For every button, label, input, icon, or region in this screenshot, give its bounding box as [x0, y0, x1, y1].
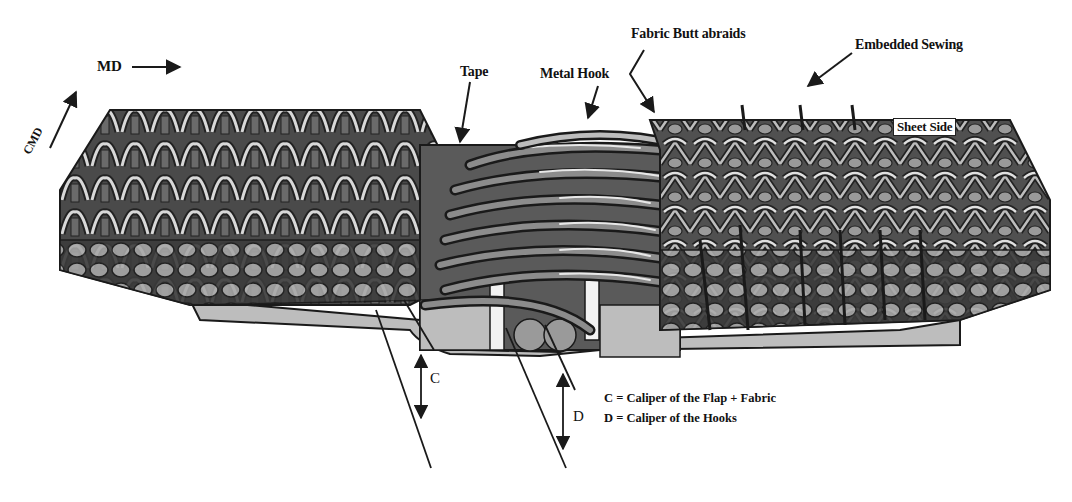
seam-diagram	[0, 0, 1072, 502]
tape-leader	[460, 82, 470, 142]
tape-callout: Tape	[460, 64, 488, 80]
fabric-left-rods	[60, 240, 440, 305]
metal-hook-leader	[588, 86, 598, 118]
legend-c: C = Caliper of the Flap + Fabric	[604, 388, 776, 408]
legend: C = Caliper of the Flap + Fabric D = Cal…	[604, 388, 776, 428]
c-dimension-label: C	[430, 370, 440, 387]
d-dimension-label: D	[573, 408, 584, 425]
embedded-sewing-leader	[808, 53, 852, 86]
legend-d: D = Caliper of the Hooks	[604, 408, 776, 428]
embedded-sewing-callout: Embedded Sewing	[855, 37, 963, 53]
metal-hook-callout: Metal Hook	[540, 66, 609, 82]
fabric-butt-callout: Fabric Butt abraids	[631, 26, 745, 42]
fabric-butt-leader	[630, 50, 654, 112]
sheet-side-label: Sheet Side	[893, 118, 956, 136]
cmd-arrow	[50, 92, 76, 148]
md-label: MD	[97, 58, 122, 75]
fabric-right-rods	[660, 250, 1050, 330]
